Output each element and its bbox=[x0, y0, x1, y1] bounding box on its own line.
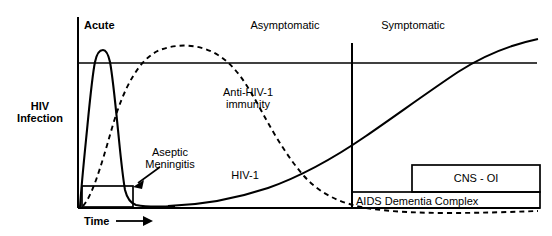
aseptic-meningitis-line2: Meningitis bbox=[125, 158, 215, 170]
anti-hiv-immunity-curve bbox=[83, 46, 538, 213]
stage-label-symptomatic: Symptomatic bbox=[358, 19, 468, 31]
curve-label-hiv-1: HIV-1 bbox=[215, 169, 275, 181]
stage-label-acute: Acute bbox=[84, 19, 115, 31]
curve-label-anti-hiv-immunity: Anti-HIV-1 immunity bbox=[198, 86, 298, 110]
hiv1-acute-spike-curve bbox=[80, 50, 175, 207]
event-label-aids-dementia-complex: AIDS Dementia Complex bbox=[356, 195, 478, 207]
y-axis-label-line1: HIV bbox=[0, 100, 80, 112]
y-axis-label-line2: Infection bbox=[0, 112, 80, 124]
time-arrow-head bbox=[143, 216, 153, 226]
anti-hiv-immunity-label-line2: immunity bbox=[198, 98, 298, 110]
hiv-natural-history-diagram: HIV Infection Acute Asymptomatic Symptom… bbox=[0, 0, 552, 236]
stage-label-asymptomatic: Asymptomatic bbox=[225, 19, 345, 31]
event-label-cns-oi: CNS - OI bbox=[412, 172, 540, 184]
y-axis-label: HIV Infection bbox=[0, 100, 80, 124]
x-axis-label-time: Time bbox=[84, 215, 109, 227]
aseptic-meningitis-arrow-head bbox=[133, 180, 144, 189]
aseptic-meningitis-line1: Aseptic bbox=[125, 146, 215, 158]
event-label-aseptic-meningitis: Aseptic Meningitis bbox=[125, 146, 215, 170]
anti-hiv-immunity-label-line1: Anti-HIV-1 bbox=[198, 86, 298, 98]
